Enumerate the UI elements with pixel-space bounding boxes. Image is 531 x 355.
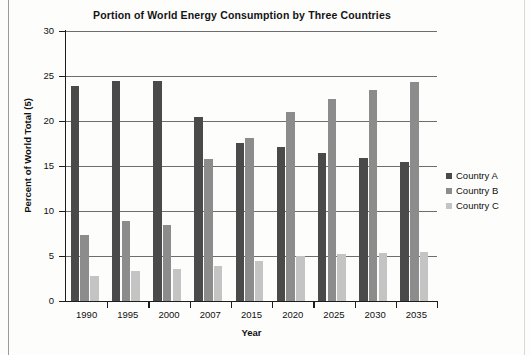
x-axis-tick-label: 2007 [187, 309, 233, 320]
y-axis-tick-label: 25 [14, 70, 54, 81]
bar-country-b-2030 [369, 90, 378, 301]
legend-item-country-a[interactable]: Country A [446, 168, 526, 183]
bar-chart-figure: Portion of World Energy Consumption by T… [0, 0, 531, 355]
bar-country-b-2035 [410, 82, 419, 301]
chart-legend: Country ACountry BCountry C [446, 168, 526, 213]
legend-label: Country B [456, 185, 498, 196]
legend-item-country-c[interactable]: Country C [446, 198, 526, 213]
bar-country-b-2015 [245, 138, 254, 301]
legend-label: Country A [456, 170, 498, 181]
bar-country-c-1995 [131, 271, 140, 301]
gridline [66, 76, 437, 77]
bar-country-a-1995 [112, 81, 121, 301]
x-axis-tick-label: 1990 [64, 309, 110, 320]
y-axis-tick [59, 256, 66, 257]
y-axis-tick [59, 121, 66, 122]
bar-country-b-1990 [80, 235, 89, 301]
bar-country-a-2015 [236, 143, 245, 301]
bar-country-b-2025 [328, 99, 337, 301]
y-axis-tick-label: 5 [14, 250, 54, 261]
y-axis-tick-label: 10 [14, 205, 54, 216]
bar-country-a-2020 [277, 147, 286, 301]
x-axis-tick [190, 302, 191, 308]
y-axis-tick-label: 0 [14, 295, 54, 306]
x-axis-tick-label: 2030 [352, 309, 398, 320]
legend-item-country-b[interactable]: Country B [446, 183, 526, 198]
y-axis-tick-label: 20 [14, 115, 54, 126]
bar-country-b-1995 [122, 221, 131, 301]
bar-country-c-2030 [379, 253, 388, 301]
x-axis-tick [396, 302, 397, 308]
x-axis-title: Year [66, 327, 437, 338]
chart-title: Portion of World Energy Consumption by T… [62, 9, 422, 21]
x-axis-tick [313, 302, 314, 308]
bar-country-a-2030 [359, 158, 368, 301]
bar-country-b-2000 [163, 225, 172, 301]
bar-country-b-2007 [204, 159, 213, 301]
legend-swatch-icon [446, 203, 452, 209]
y-axis-tick-label: 15 [14, 160, 54, 171]
bar-country-a-2025 [318, 153, 327, 302]
x-axis-tick [107, 302, 108, 308]
x-axis-tick-label: 2035 [393, 309, 439, 320]
bar-country-c-2025 [337, 254, 346, 301]
x-axis-tick [148, 302, 149, 308]
y-axis-title: Percent of World Total (5) [22, 66, 33, 246]
y-axis-tick [59, 76, 66, 77]
legend-swatch-icon [446, 173, 452, 179]
x-axis-line [65, 301, 438, 302]
bar-country-c-2020 [296, 256, 305, 301]
bar-country-c-2007 [214, 266, 223, 301]
x-axis-tick-label: 1995 [105, 309, 151, 320]
legend-swatch-icon [446, 188, 452, 194]
y-axis-tick [59, 31, 66, 32]
x-axis-tick [272, 302, 273, 308]
bar-country-a-2007 [194, 117, 203, 302]
gridline [66, 121, 437, 122]
x-axis-tick [437, 302, 438, 308]
x-axis-tick [231, 302, 232, 308]
bar-country-c-2015 [255, 261, 264, 302]
legend-label: Country C [456, 200, 499, 211]
gridline [66, 31, 437, 32]
bar-country-a-1990 [71, 86, 80, 301]
x-axis-tick-label: 2000 [146, 309, 192, 320]
bar-country-a-2000 [153, 81, 162, 301]
plot-area [66, 31, 437, 301]
x-axis-tick-label: 2015 [229, 309, 275, 320]
y-axis-tick [59, 166, 66, 167]
bar-country-c-2000 [173, 269, 182, 301]
bar-country-c-2035 [420, 252, 429, 301]
y-axis-tick-label: 30 [14, 25, 54, 36]
bar-country-c-1990 [90, 276, 99, 301]
y-axis-tick [59, 211, 66, 212]
bar-country-b-2020 [286, 112, 295, 301]
y-axis-tick [59, 301, 66, 302]
x-axis-tick-label: 2025 [311, 309, 357, 320]
bar-country-a-2035 [400, 162, 409, 301]
x-axis-tick [355, 302, 356, 308]
x-axis-tick-label: 2020 [270, 309, 316, 320]
